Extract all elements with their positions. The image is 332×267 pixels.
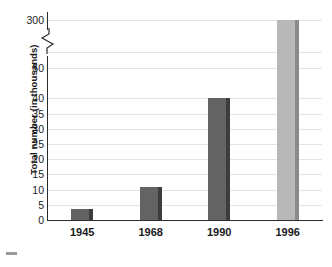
bar-right-edge: [89, 209, 93, 220]
x-axis-tick-label: 1945: [52, 226, 112, 238]
y-axis-tick-label: 15: [14, 169, 44, 180]
x-axis-tick-label: 1996: [258, 226, 318, 238]
bar: [140, 187, 162, 220]
x-axis-tick-label: 1990: [189, 226, 249, 238]
y-axis-tick-label: 25: [14, 139, 44, 150]
y-axis-tick-label: 300: [14, 15, 44, 26]
y-axis-line-lower: [47, 56, 48, 221]
bar-chart: Total number (in thousands) 051015202530…: [0, 0, 332, 267]
bar-right-edge: [226, 98, 230, 220]
y-axis-tick-label: 0: [14, 215, 44, 226]
y-axis-tick-label: 50: [14, 63, 44, 74]
axis-break-zigzag-icon: [38, 28, 58, 54]
bar: [208, 98, 230, 220]
y-axis-tick-label: 35: [14, 109, 44, 120]
y-axis-tick-label: 10: [14, 185, 44, 196]
corner-artifact-mark: [6, 252, 17, 255]
bar-right-edge: [295, 20, 299, 220]
y-axis-tick-label: 20: [14, 154, 44, 165]
bar-right-edge: [158, 187, 162, 220]
x-axis-line: [47, 220, 323, 221]
y-axis-tick-label: 40: [14, 93, 44, 104]
y-axis-tick-label: 30: [14, 124, 44, 135]
y-axis-tick-label: 5: [14, 200, 44, 211]
x-axis-tick-label: 1968: [121, 226, 181, 238]
plot-area: [48, 12, 322, 220]
bar: [71, 209, 93, 220]
bar: [277, 20, 299, 220]
